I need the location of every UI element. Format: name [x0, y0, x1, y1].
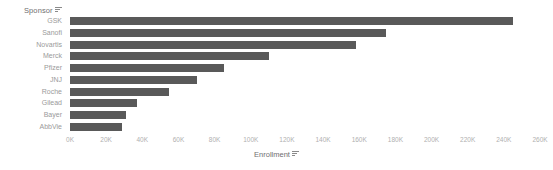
bar[interactable]: [70, 111, 126, 119]
bar[interactable]: [70, 52, 269, 60]
bar-row: [70, 88, 540, 96]
bar[interactable]: [70, 64, 224, 72]
x-axis-tick-label: 200K: [424, 136, 439, 143]
y-axis-category-label: Bayer: [0, 111, 66, 119]
y-axis-category-labels: GSKSanofiNovartisMerckPfizerJNJRocheGile…: [0, 17, 66, 131]
x-axis-tick-label: 120K: [279, 136, 294, 143]
x-axis-title[interactable]: Enrollment: [0, 150, 553, 159]
bar-row: [70, 123, 540, 131]
sort-icon[interactable]: [292, 150, 299, 158]
bar[interactable]: [70, 29, 386, 37]
y-axis-category-label: Gilead: [0, 99, 66, 107]
bar-rows: [70, 17, 540, 131]
x-axis-tick-label: 40K: [137, 136, 149, 143]
x-axis-tick-label: 220K: [460, 136, 475, 143]
bar-row: [70, 76, 540, 84]
y-axis-category-label: Sanofi: [0, 29, 66, 37]
x-axis-tick-label: 240K: [496, 136, 511, 143]
x-axis-tick-label: 80K: [209, 136, 221, 143]
bar[interactable]: [70, 99, 137, 107]
sort-icon[interactable]: [55, 6, 62, 14]
y-axis-category-label: GSK: [0, 17, 66, 25]
x-axis-ticks: 0K20K40K60K80K100K120K140K160K180K200K22…: [70, 136, 540, 146]
bar-row: [70, 52, 540, 60]
x-axis-tick-label: 100K: [243, 136, 258, 143]
y-axis-category-label: Pfizer: [0, 64, 66, 72]
y-axis-category-label: Merck: [0, 52, 66, 60]
bar[interactable]: [70, 88, 169, 96]
y-axis-category-label: AbbVie: [0, 123, 66, 131]
bar-row: [70, 41, 540, 49]
x-axis-tick-label: 60K: [173, 136, 185, 143]
bar-chart: Sponsor GSKSanofiNovartisMerckPfizerJNJR…: [0, 0, 553, 170]
bar-row: [70, 29, 540, 37]
bar-row: [70, 111, 540, 119]
bar[interactable]: [70, 17, 513, 25]
y-axis-category-label: Novartis: [0, 41, 66, 49]
x-axis-tick-label: 160K: [352, 136, 367, 143]
x-axis-tick-label: 20K: [100, 136, 112, 143]
x-axis-title-label: Enrollment: [254, 150, 290, 159]
bar[interactable]: [70, 76, 197, 84]
bar[interactable]: [70, 41, 356, 49]
x-axis-tick-label: 260K: [532, 136, 547, 143]
y-axis-category-label: Roche: [0, 88, 66, 96]
bar-row: [70, 64, 540, 72]
x-axis-tick-label: 0K: [66, 136, 74, 143]
x-axis-tick-label: 180K: [388, 136, 403, 143]
bar-row: [70, 17, 540, 25]
bar-row: [70, 99, 540, 107]
y-axis-title[interactable]: Sponsor: [24, 6, 62, 15]
bar[interactable]: [70, 123, 122, 131]
plot-area: [70, 17, 540, 131]
y-axis-title-label: Sponsor: [24, 6, 53, 15]
x-axis-tick-label: 140K: [315, 136, 330, 143]
y-axis-category-label: JNJ: [0, 76, 66, 84]
